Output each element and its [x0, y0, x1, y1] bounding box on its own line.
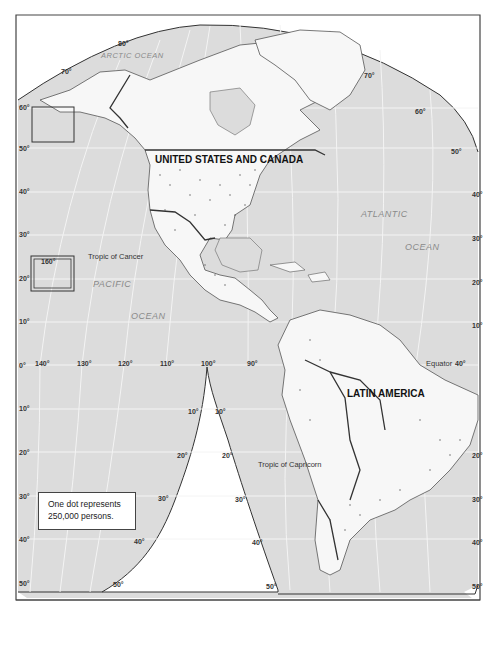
inset-longitude-label: 160°: [41, 258, 55, 265]
lat-label: 10°: [472, 322, 483, 329]
cusp-label-right: 20°: [222, 452, 233, 459]
legend-line-2: 250,000 persons.: [48, 510, 135, 522]
population-dot-map: [0, 0, 497, 648]
lat-label-80: 80°: [118, 40, 129, 47]
cusp-label-right: 50°: [266, 583, 277, 590]
legend-line-1: One dot represents: [48, 498, 135, 510]
lat-label: 30°: [472, 235, 483, 242]
lat-label: 0°: [19, 362, 26, 369]
lat-label: 10°: [19, 318, 30, 325]
map-legend: One dot represents 250,000 persons.: [38, 492, 136, 530]
label-equator: Equator: [426, 360, 452, 368]
lat-label: 20°: [472, 452, 483, 459]
cusp-label-left: 50°: [113, 581, 124, 588]
lat-label: 40°: [472, 539, 483, 546]
lat-label: 50°: [472, 583, 483, 590]
cusp-label-right: 10°: [215, 408, 226, 415]
lon-label: 90°: [247, 360, 258, 367]
lat-label: 70°: [364, 72, 375, 79]
label-arctic-ocean: ARCTIC OCEAN: [101, 52, 164, 60]
lat-label: 60°: [19, 104, 30, 111]
cusp-label-left: 20°: [177, 452, 188, 459]
label-atlantic: ATLANTIC: [361, 210, 408, 219]
lat-label: 30°: [472, 496, 483, 503]
lat-label: 30°: [19, 231, 30, 238]
lat-label: 60°: [415, 108, 426, 115]
cusp-label-right: 40°: [252, 539, 263, 546]
label-us-canada: UNITED STATES AND CANADA: [155, 155, 303, 165]
label-pacific: PACIFIC: [93, 280, 131, 289]
lon-label: 110°: [160, 360, 174, 367]
label-pacific-ocean: OCEAN: [131, 312, 166, 321]
lat-label: 40°: [19, 188, 30, 195]
cusp-label-left: 30°: [158, 495, 169, 502]
label-tropic-of-cancer: Tropic of Cancer: [88, 253, 143, 261]
lat-label: 40°: [472, 191, 483, 198]
lon-label: 100°: [201, 360, 215, 367]
lon-label: 130°: [77, 360, 91, 367]
lat-label: 30°: [19, 493, 30, 500]
label-latin-america: LATIN AMERICA: [347, 389, 425, 399]
lat-label: 20°: [19, 275, 30, 282]
lat-label: 10°: [19, 405, 30, 412]
cusp-label-left: 10°: [188, 408, 199, 415]
label-tropic-of-capricorn: Tropic of Capricorn: [258, 461, 322, 469]
lat-label: 40°: [19, 536, 30, 543]
lat-label: 50°: [451, 148, 462, 155]
cusp-label-left: 40°: [134, 538, 145, 545]
lat-label-70-left: 70°: [61, 68, 72, 75]
lon-label: 120°: [118, 360, 132, 367]
lat-label: 20°: [19, 449, 30, 456]
lat-label: 50°: [19, 580, 30, 587]
cusp-label-right: 30°: [235, 496, 246, 503]
label-atlantic-ocean: OCEAN: [405, 243, 440, 252]
lat-label: 20°: [472, 279, 483, 286]
lat-label: 50°: [19, 145, 30, 152]
lon-label: 40°: [455, 360, 466, 367]
lon-label: 140°: [35, 360, 49, 367]
